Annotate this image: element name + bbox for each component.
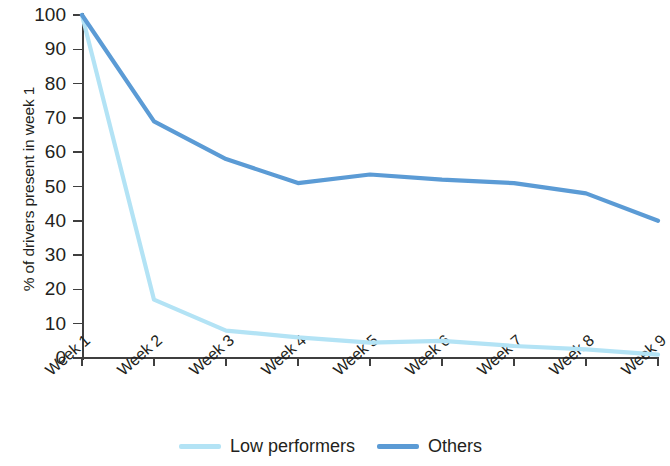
x-tick-label: Week 2 (114, 331, 166, 379)
y-tick-mark (73, 117, 82, 119)
x-tick-label: Week 7 (474, 331, 526, 379)
y-tick-label: 40 (45, 211, 66, 230)
y-tick-label: 70 (45, 108, 66, 127)
x-tick-mark (585, 358, 587, 366)
x-tick-label: Week 8 (546, 331, 598, 379)
x-tick-label: Week 6 (402, 331, 454, 379)
y-axis-title: % of drivers present in week 1 (20, 24, 38, 354)
y-axis-line (82, 13, 84, 360)
y-tick-mark (73, 289, 82, 291)
y-tick-label: 60 (45, 142, 66, 161)
x-tick-label: Week 1 (42, 331, 94, 379)
y-tick-mark (73, 151, 82, 153)
y-tick-label: 50 (45, 177, 66, 196)
series-line (82, 15, 658, 221)
x-tick-mark (441, 358, 443, 366)
legend-swatch-icon (377, 444, 419, 449)
x-tick-mark (297, 358, 299, 366)
x-tick-label: Week 9 (618, 331, 670, 379)
y-tick-mark (73, 323, 82, 325)
y-tick-mark (73, 83, 82, 85)
y-tick-mark (73, 186, 82, 188)
y-tick-label: 90 (45, 39, 66, 58)
y-tick-mark (73, 220, 82, 222)
y-tick-mark (73, 254, 82, 256)
y-tick-label: 100 (34, 5, 66, 24)
x-tick-mark (369, 358, 371, 366)
legend-label: Low performers (230, 436, 355, 457)
x-tick-mark (657, 358, 659, 366)
legend-swatch-icon (179, 444, 221, 449)
y-tick-label: 10 (45, 314, 66, 333)
y-tick-mark (73, 49, 82, 51)
legend-item[interactable]: Low performers (179, 436, 355, 457)
x-tick-label: Week 4 (258, 331, 310, 379)
legend-item[interactable]: Others (377, 436, 482, 457)
y-tick-mark (73, 14, 82, 16)
legend-label: Others (428, 436, 482, 457)
x-tick-label: Week 3 (186, 331, 238, 379)
y-tick-label: 80 (45, 74, 66, 93)
x-tick-mark (81, 358, 83, 366)
y-tick-label: 20 (45, 279, 66, 298)
y-tick-label: 30 (45, 245, 66, 264)
x-tick-mark (225, 358, 227, 366)
x-tick-label: Week 5 (330, 331, 382, 379)
chart-legend: Low performersOthers (0, 436, 661, 457)
series-line (82, 15, 658, 355)
x-tick-mark (153, 358, 155, 366)
x-tick-mark (513, 358, 515, 366)
